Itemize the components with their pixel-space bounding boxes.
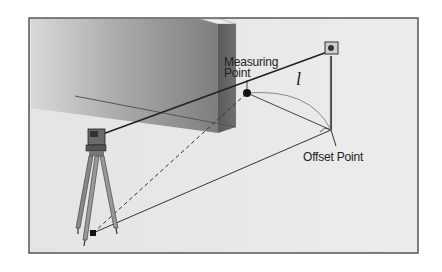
measuring-point-label-line2: Point [224, 67, 250, 79]
offset-point-label: Offset Point [303, 151, 363, 163]
diagram-figure: Measuring Point l Offset Point [0, 0, 442, 272]
distance-label: l [296, 73, 301, 85]
diagram-canvas [0, 0, 442, 272]
